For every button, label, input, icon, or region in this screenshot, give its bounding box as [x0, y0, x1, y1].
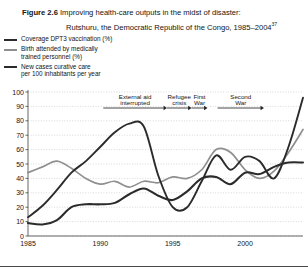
y-tick-label-90: 90 — [16, 103, 24, 110]
y-tick-label-60: 60 — [16, 146, 24, 153]
legend-label-dpt3: Coverage DPT3 vaccination (%) — [21, 35, 112, 43]
x-tick-label-1995: 1995 — [165, 240, 181, 247]
legend-label-curative-line-2: per 100 inhabitants per year — [21, 70, 101, 77]
figure-bottom-rule — [0, 266, 308, 267]
y-tick-label-40: 40 — [16, 175, 24, 182]
legend-label-births-line-2: trained personnel (%) — [21, 53, 82, 60]
annotation-label-1-line-2: crisis — [172, 99, 186, 106]
legend-swatch-births — [4, 49, 17, 51]
figure-title-text-1: Improving health-care outputs in the mid… — [60, 8, 241, 17]
chart-x-axis: 1985199019952000 — [20, 240, 253, 247]
y-tick-label-50: 50 — [16, 161, 24, 168]
legend-item-dpt3[interactable]: Coverage DPT3 vaccination (%) — [4, 35, 184, 43]
series-line-births — [28, 129, 303, 187]
chart-plot-area: 0102030405060708090100 1985199019952000 … — [0, 84, 308, 254]
legend-item-curative[interactable]: New cases curative care per 100 inhabita… — [4, 63, 184, 78]
chart-annotations: External aidinterruptedRefugeecrisisFirs… — [103, 93, 264, 111]
figure-title-line-2: Rutshuru, the Democratic Republic of the… — [22, 19, 300, 33]
legend-item-births[interactable]: Birth attended by medically trained pers… — [4, 45, 184, 60]
x-tick-label-1990: 1990 — [93, 240, 109, 247]
chart-series-group — [28, 98, 303, 225]
y-tick-label-70: 70 — [16, 132, 24, 139]
legend-swatch-curative — [4, 66, 17, 68]
figure-number: Figure 2.6 — [22, 8, 58, 17]
x-tick-label-2000: 2000 — [237, 240, 253, 247]
y-tick-label-30: 30 — [16, 189, 24, 196]
x-tick-label-1985: 1985 — [20, 240, 36, 247]
figure-footnote-marker: 37 — [272, 21, 278, 27]
legend-swatch-dpt3 — [4, 39, 17, 41]
y-tick-label-80: 80 — [16, 117, 24, 124]
legend-label-curative-line-1: New cases curative care — [21, 63, 91, 70]
figure-title-line-1: Figure 2.6 Improving health-care outputs… — [22, 8, 300, 19]
legend-label-births-line-1: Birth attended by medically — [21, 45, 98, 52]
annotation-label-0-line-2: interrupted — [120, 99, 150, 106]
annotation-label-2-line-2: War — [194, 99, 205, 106]
annotation-label-3-line-2: War — [235, 99, 246, 106]
y-tick-label-10: 10 — [16, 218, 24, 225]
line-chart-svg: 0102030405060708090100 1985199019952000 … — [0, 84, 308, 254]
figure-title: Figure 2.6 Improving health-care outputs… — [22, 8, 300, 33]
y-tick-label-100: 100 — [12, 89, 24, 96]
y-tick-label-0: 0 — [20, 233, 24, 240]
y-tick-label-20: 20 — [16, 204, 24, 211]
figure-title-text-2: Rutshuru, the Democratic Republic of the… — [66, 22, 272, 31]
legend-label-births: Birth attended by medically trained pers… — [21, 45, 98, 60]
chart-y-axis: 0102030405060708090100 — [12, 89, 28, 240]
chart-legend: Coverage DPT3 vaccination (%) Birth atte… — [4, 35, 184, 80]
legend-label-curative: New cases curative care per 100 inhabita… — [21, 63, 101, 78]
figure-container: Figure 2.6 Improving health-care outputs… — [0, 0, 308, 273]
